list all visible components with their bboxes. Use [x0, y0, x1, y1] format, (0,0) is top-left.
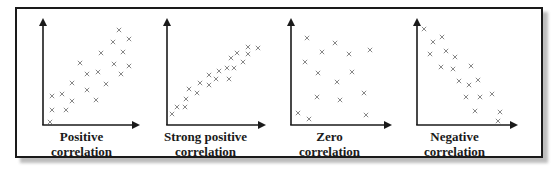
data-point-x-marker — [303, 60, 307, 64]
data-point-x-marker — [464, 95, 468, 99]
y-axis-arrow-icon — [39, 18, 47, 26]
data-point-x-marker — [296, 111, 300, 115]
data-point-x-marker — [333, 41, 337, 45]
panel-label-strong-positive: Strong positive correlation — [150, 129, 261, 159]
label-line-1: Negative — [398, 129, 511, 144]
data-point-x-marker — [214, 77, 218, 81]
data-point-x-marker — [364, 113, 368, 117]
data-point-x-marker — [307, 117, 311, 121]
data-point-x-marker — [121, 50, 125, 54]
data-point-x-marker — [347, 52, 351, 56]
data-point-x-marker — [184, 97, 188, 101]
data-point-x-marker — [469, 64, 473, 68]
data-point-x-marker — [50, 94, 54, 98]
data-point-x-marker — [428, 52, 432, 56]
data-point-x-marker — [117, 28, 121, 32]
data-point-x-marker — [70, 81, 74, 85]
data-point-x-marker — [496, 119, 500, 123]
data-point-x-marker — [50, 108, 54, 112]
data-point-x-marker — [94, 98, 98, 102]
data-point-x-marker — [96, 70, 100, 74]
data-point-x-marker — [207, 73, 211, 77]
data-point-x-marker — [368, 48, 372, 52]
data-point-x-marker — [422, 27, 426, 31]
data-point-x-marker — [175, 105, 179, 109]
data-point-x-marker — [60, 92, 64, 96]
data-point-x-marker — [473, 109, 477, 113]
data-point-x-marker — [439, 65, 443, 69]
data-point-x-marker — [457, 79, 461, 83]
label-line-2: correlation — [273, 144, 386, 159]
data-point-x-marker — [235, 51, 239, 55]
x-axis-arrow-icon — [510, 121, 518, 129]
data-point-x-marker — [104, 82, 108, 86]
y-axis-arrow-icon — [163, 18, 171, 26]
panel-label-positive: Positive correlation — [27, 129, 136, 159]
data-point-x-marker — [48, 120, 52, 124]
data-point-x-marker — [78, 61, 82, 65]
data-point-x-marker — [444, 49, 448, 53]
label-line-1: Positive — [27, 129, 136, 144]
data-point-x-marker — [467, 83, 471, 87]
label-line-2: correlation — [150, 144, 261, 159]
data-point-x-marker — [227, 77, 231, 81]
data-point-x-marker — [478, 95, 482, 99]
data-point-x-marker — [187, 87, 191, 91]
scatter-panel-2 — [163, 18, 266, 129]
label-line-2: correlation — [398, 144, 511, 159]
data-point-x-marker — [229, 56, 233, 60]
data-point-x-marker — [246, 45, 250, 49]
data-point-x-marker — [183, 105, 187, 109]
data-point-x-marker — [440, 35, 444, 39]
data-point-x-marker — [241, 60, 245, 64]
data-point-x-marker — [315, 95, 319, 99]
data-point-x-marker — [256, 46, 260, 50]
data-point-x-marker — [246, 52, 250, 56]
data-point-x-marker — [85, 88, 89, 92]
data-point-x-marker — [170, 112, 174, 116]
data-point-x-marker — [70, 99, 74, 103]
data-point-x-marker — [316, 71, 320, 75]
panel-label-negative: Negative correlation — [398, 129, 511, 159]
x-axis-arrow-icon — [132, 121, 140, 129]
data-point-x-marker — [451, 67, 455, 71]
label-line-1: Strong positive — [150, 129, 261, 144]
y-axis-arrow-icon — [413, 18, 421, 26]
data-point-x-marker — [99, 51, 103, 55]
data-point-x-marker — [207, 83, 211, 87]
data-point-x-marker — [476, 78, 480, 82]
data-point-x-marker — [111, 40, 115, 44]
x-axis-arrow-icon — [384, 121, 392, 129]
data-point-x-marker — [112, 62, 116, 66]
data-point-x-marker — [498, 110, 502, 114]
x-axis-arrow-icon — [258, 121, 266, 129]
data-point-x-marker — [195, 91, 199, 95]
data-point-x-marker — [490, 92, 494, 96]
data-point-x-marker — [453, 55, 457, 59]
data-point-x-marker — [198, 81, 202, 85]
data-point-x-marker — [232, 66, 236, 70]
data-point-x-marker — [335, 80, 339, 84]
scatter-panel-4 — [413, 18, 518, 129]
data-point-x-marker — [431, 40, 435, 44]
data-point-x-marker — [127, 64, 131, 68]
data-point-x-marker — [127, 37, 131, 41]
data-point-x-marker — [338, 98, 342, 102]
data-point-x-marker — [85, 72, 89, 76]
label-line-1: Zero — [273, 129, 386, 144]
data-point-x-marker — [64, 108, 68, 112]
data-point-x-marker — [305, 36, 309, 40]
label-line-2: correlation — [27, 144, 136, 159]
data-point-x-marker — [119, 72, 123, 76]
data-point-x-marker — [362, 91, 366, 95]
panel-label-zero: Zero correlation — [273, 129, 386, 159]
data-point-x-marker — [350, 70, 354, 74]
data-point-x-marker — [225, 66, 229, 70]
scatter-panel-1 — [39, 18, 140, 129]
scatter-panel-3 — [287, 18, 392, 129]
y-axis-arrow-icon — [287, 18, 295, 26]
data-point-x-marker — [217, 69, 221, 73]
data-point-x-marker — [320, 50, 324, 54]
